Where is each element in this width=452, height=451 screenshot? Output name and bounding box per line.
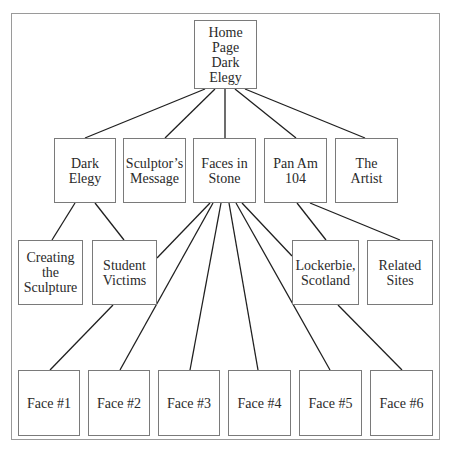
node-label: Student Victims xyxy=(103,258,147,288)
node-pan-am-104[interactable]: Pan Am 104 xyxy=(264,138,327,203)
edge-faces-in-stone-to-lockerbie-scotland xyxy=(242,203,292,256)
node-label: Related Sites xyxy=(379,258,422,288)
node-label: Creating the Sculpture xyxy=(24,250,78,295)
node-label: Lockerbie, Scotland xyxy=(295,258,355,288)
node-face-5[interactable]: Face #5 xyxy=(299,370,362,436)
node-lockerbie-scotland[interactable]: Lockerbie, Scotland xyxy=(292,240,359,305)
node-label: The Artist xyxy=(351,156,383,186)
edge-home-to-sculptors-message xyxy=(165,89,215,138)
node-label: Face #5 xyxy=(309,396,353,411)
node-face-1[interactable]: Face #1 xyxy=(18,370,80,436)
node-label: Home Page Dark Elegy xyxy=(208,25,242,85)
node-face-4[interactable]: Face #4 xyxy=(228,370,291,436)
node-face-2[interactable]: Face #2 xyxy=(88,370,150,436)
edge-home-to-dark-elegy xyxy=(85,89,205,138)
node-label: Sculptor’s Message xyxy=(126,156,183,186)
edge-pan-am-104-to-related-sites xyxy=(310,203,400,240)
edge-faces-in-stone-to-student-victims xyxy=(157,203,210,258)
edge-home-to-pan-am-104 xyxy=(235,89,296,138)
node-label: Face #2 xyxy=(97,396,141,411)
node-the-artist[interactable]: The Artist xyxy=(335,138,398,203)
edge-home-to-the-artist xyxy=(245,89,365,138)
node-home[interactable]: Home Page Dark Elegy xyxy=(194,20,257,89)
node-face-3[interactable]: Face #3 xyxy=(158,370,220,436)
edge-student-victims-to-face-1 xyxy=(50,305,113,370)
node-label: Face #3 xyxy=(167,396,211,411)
node-related-sites[interactable]: Related Sites xyxy=(367,240,433,305)
node-faces-in-stone[interactable]: Faces in Stone xyxy=(193,138,256,203)
node-label: Pan Am 104 xyxy=(273,156,318,186)
node-creating-the-sculpture[interactable]: Creating the Sculpture xyxy=(18,240,83,305)
edge-pan-am-104-to-lockerbie-scotland xyxy=(297,203,326,240)
site-map-diagram: Home Page Dark ElegyDark ElegySculptor’s… xyxy=(0,0,452,451)
edge-lockerbie-scotland-to-face-6 xyxy=(338,305,402,370)
node-dark-elegy[interactable]: Dark Elegy xyxy=(54,138,116,203)
edge-faces-in-stone-to-face-4 xyxy=(229,203,258,370)
node-student-victims[interactable]: Student Victims xyxy=(92,240,157,305)
node-label: Dark Elegy xyxy=(69,156,102,186)
node-label: Face #4 xyxy=(238,396,282,411)
node-label: Faces in Stone xyxy=(201,156,247,186)
edge-dark-elegy-to-student-victims xyxy=(95,203,124,240)
node-label: Face #1 xyxy=(27,396,71,411)
node-sculptors-message[interactable]: Sculptor’s Message xyxy=(123,138,186,203)
edge-dark-elegy-to-creating-the-sculpture xyxy=(52,203,75,240)
node-face-6[interactable]: Face #6 xyxy=(370,370,433,436)
node-label: Face #6 xyxy=(380,396,424,411)
edge-faces-in-stone-to-face-3 xyxy=(190,203,221,370)
